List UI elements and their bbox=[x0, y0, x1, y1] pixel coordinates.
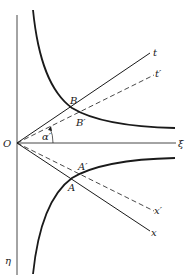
angle-label: α′ bbox=[42, 131, 52, 142]
point-b-label: B bbox=[69, 95, 77, 106]
line-x-prime bbox=[17, 143, 154, 211]
lower-hyperbola bbox=[33, 158, 175, 274]
x-prime-line-label: x′ bbox=[154, 205, 163, 216]
t-line-label: t bbox=[153, 47, 158, 58]
x-line-label: x bbox=[151, 227, 157, 238]
t-prime-line-label: t′ bbox=[155, 68, 162, 79]
xi-axis-label: ξ bbox=[178, 138, 184, 149]
origin-label: O bbox=[3, 138, 11, 149]
diagram-canvas: O ξ η t t′ x x′ B B′ A′ A α′ bbox=[0, 0, 190, 280]
point-a-label: A bbox=[67, 182, 75, 193]
line-t-prime bbox=[17, 75, 154, 143]
eta-axis-label: η bbox=[5, 255, 11, 266]
line-t bbox=[17, 53, 150, 143]
point-b-prime-label: B′ bbox=[75, 117, 86, 128]
point-a-prime-label: A′ bbox=[77, 161, 88, 172]
upper-hyperbola bbox=[33, 10, 175, 128]
line-x bbox=[17, 143, 150, 231]
